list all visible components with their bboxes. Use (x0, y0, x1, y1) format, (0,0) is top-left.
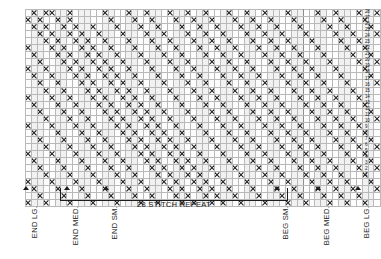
marker-label-beg-lg: BEG LG. (362, 206, 371, 238)
stitch-row (26, 179, 381, 186)
marker-triangle-end-lg (23, 186, 29, 190)
stitch-row (26, 157, 381, 164)
stitch-cell-marked (374, 186, 381, 193)
stitch-row (26, 10, 381, 17)
stitch-row (26, 45, 381, 52)
stitch-row (26, 129, 381, 136)
stitch-row (26, 73, 381, 80)
stitch-row (26, 136, 381, 143)
marker-label-end-med: END MED. (71, 206, 80, 245)
stitch-row (26, 108, 381, 115)
stitch-row (26, 101, 381, 108)
stitch-row (26, 87, 381, 94)
stitch-row (26, 38, 381, 45)
stitch-grid-container (25, 9, 381, 207)
marker-label-beg-med: BEG MED. (322, 206, 331, 245)
stitch-grid-body (26, 10, 381, 207)
stitch-cell-empty (374, 200, 381, 207)
knitting-chart: 2827262524232221201918171615141312111098… (0, 0, 381, 259)
stitch-row (26, 52, 381, 59)
marker-label-end-sm: END SM. (110, 206, 119, 239)
stitch-row (26, 122, 381, 129)
stitch-row (26, 66, 381, 73)
repeat-label: 28 STITCH REPEAT (60, 200, 288, 209)
stitch-row (26, 165, 381, 172)
marker-label-end-lg: END LG. (30, 206, 39, 238)
stitch-row (26, 59, 381, 66)
marker-triangle-beg-lg (355, 186, 361, 190)
stitch-grid (25, 9, 381, 207)
stitch-row (26, 24, 381, 31)
stitch-row (26, 80, 381, 87)
stitch-row (26, 94, 381, 101)
stitch-row (26, 150, 381, 157)
row-number-column: 2827262524232221201918171615141312111098… (365, 9, 379, 178)
marker-triangle-beg-med (315, 186, 321, 190)
row-number: 1 (365, 172, 379, 178)
stitch-row (26, 115, 381, 122)
stitch-cell-empty (374, 179, 381, 186)
marker-label-beg-sm: BEG SM. (281, 206, 290, 239)
stitch-cell-empty (374, 193, 381, 200)
stitch-row (26, 17, 381, 24)
stitch-row (26, 172, 381, 179)
stitch-row (26, 31, 381, 38)
stitch-row (26, 143, 381, 150)
